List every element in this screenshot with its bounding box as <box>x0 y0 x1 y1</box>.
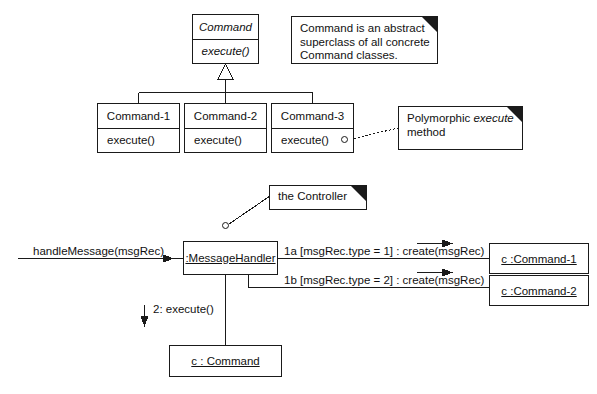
note-polymorphic-execute[interactable]: Polymorphic execute method <box>398 106 523 150</box>
class-name-command-3: Command-3 <box>272 104 353 129</box>
note-line-1: Command is an abstract <box>300 22 430 36</box>
class-operation-command: execute() <box>193 40 258 64</box>
class-box-command-3[interactable]: Command-3 execute() <box>271 103 354 153</box>
controller-note-anchor <box>229 196 270 224</box>
message-label-2: 2: execute() <box>153 303 214 315</box>
class-box-command-1[interactable]: Command-1 execute() <box>97 103 180 153</box>
class-name-command-1: Command-1 <box>98 104 179 129</box>
object-label-command: c : Command <box>191 355 259 367</box>
controller-role-marker-icon <box>222 222 229 229</box>
polymorphic-note-anchor <box>350 128 398 140</box>
message-label-handle-message: handleMessage(msgRec) <box>33 245 164 257</box>
message-label-1b: 1b [msgRec.type = 2] : create(msgRec) <box>284 274 484 286</box>
note-abstract-superclass[interactable]: Command is an abstract superclass of all… <box>291 16 438 64</box>
class-name-command: Command <box>193 15 258 40</box>
object-box-command[interactable]: c : Command <box>169 345 282 377</box>
message-label-1a: 1a [msgRec.type = 1] : create(msgRec) <box>284 245 484 257</box>
uml-diagram-canvas: Command execute() Command is an abstract… <box>0 0 597 394</box>
note-fold-icon <box>507 107 522 122</box>
object-label-command-1: c :Command-1 <box>501 253 576 265</box>
object-box-message-handler[interactable]: :MessageHandler <box>183 241 278 275</box>
note-line-2: superclass of all concrete <box>300 36 430 50</box>
note-line-3: Command classes. <box>300 49 430 63</box>
class-box-command[interactable]: Command execute() <box>192 14 259 64</box>
object-label-message-handler: :MessageHandler <box>185 252 275 264</box>
arrow-2-head <box>141 316 149 327</box>
class-box-command-2[interactable]: Command-2 execute() <box>184 103 267 153</box>
class-operation-command-1: execute() <box>98 129 179 153</box>
note-controller-text: the Controller <box>278 190 359 204</box>
note-polymorphic-line-1: Polymorphic execute <box>407 112 515 126</box>
note-fold-icon <box>351 186 366 201</box>
polymorphic-method-marker-icon <box>341 136 348 143</box>
note-polymorphic-prefix: Polymorphic <box>407 112 473 124</box>
note-fold-icon <box>422 17 437 32</box>
object-label-command-2: c :Command-2 <box>501 285 576 297</box>
class-operation-command-2: execute() <box>185 129 266 153</box>
generalization-arrowhead <box>218 64 233 79</box>
incoming-message-arrowhead <box>163 255 174 263</box>
note-the-controller[interactable]: the Controller <box>269 185 367 210</box>
note-polymorphic-line-2: method <box>407 126 515 140</box>
object-box-command-1[interactable]: c :Command-1 <box>489 243 589 274</box>
object-box-command-2[interactable]: c :Command-2 <box>489 275 589 306</box>
class-name-command-2: Command-2 <box>185 104 266 129</box>
